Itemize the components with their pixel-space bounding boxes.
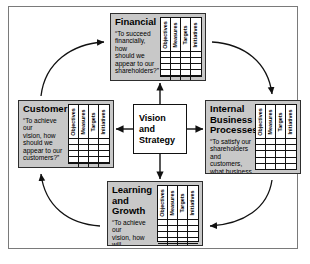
table-cell[interactable] (69, 151, 79, 156)
table-cell[interactable] (168, 244, 178, 246)
table-cell[interactable] (191, 64, 201, 69)
table-cell[interactable] (188, 244, 198, 246)
table-cell[interactable] (286, 145, 296, 150)
table-cell[interactable] (79, 145, 89, 150)
table-cell[interactable] (79, 163, 89, 168)
table-cell[interactable] (188, 238, 198, 243)
table-row[interactable] (158, 244, 198, 246)
learning-scorecard-table[interactable]: Objectives Measures Targets Initiatives (157, 185, 199, 242)
table-cell[interactable] (266, 139, 276, 144)
table-row[interactable] (69, 163, 109, 168)
table-cell[interactable] (286, 151, 296, 156)
table-cell[interactable] (168, 226, 178, 231)
table-cell[interactable] (161, 64, 171, 69)
table-cell[interactable] (79, 139, 89, 144)
table-cell[interactable] (191, 58, 201, 63)
table-cell[interactable] (178, 232, 188, 237)
table-cell[interactable] (286, 139, 296, 144)
table-cell[interactable] (286, 158, 296, 163)
table-cell[interactable] (178, 244, 188, 246)
header-label-measures: Measures (170, 190, 175, 215)
table-cell[interactable] (276, 151, 286, 156)
table-cell[interactable] (286, 164, 296, 169)
table-cell[interactable] (188, 232, 198, 237)
table-cell[interactable] (89, 139, 99, 144)
table-cell[interactable] (161, 52, 171, 57)
table-cell[interactable] (89, 145, 99, 150)
table-cell[interactable] (69, 139, 79, 144)
table-cell[interactable] (256, 164, 266, 169)
table-cell[interactable] (178, 220, 188, 225)
table-cell[interactable] (181, 58, 191, 63)
table-cell[interactable] (171, 64, 181, 69)
table-cell[interactable] (191, 52, 201, 57)
table-cell[interactable] (256, 158, 266, 163)
table-cell[interactable] (266, 151, 276, 156)
table-cell[interactable] (158, 220, 168, 225)
table-cell[interactable] (99, 151, 109, 156)
table-cell[interactable] (158, 244, 168, 246)
table-cell[interactable] (158, 226, 168, 231)
table-header-row: Objectives Measures Targets Initiatives (69, 105, 109, 139)
table-cell[interactable] (171, 58, 181, 63)
table-cell[interactable] (161, 76, 171, 81)
table-row[interactable] (161, 76, 201, 81)
perspective-box-customer[interactable]: Customer “To achieve our vision, how sho… (18, 100, 114, 168)
table-cell[interactable] (266, 164, 276, 169)
table-cell[interactable] (79, 157, 89, 162)
table-cell[interactable] (99, 163, 109, 168)
table-cell[interactable] (256, 151, 266, 156)
table-cell[interactable] (178, 226, 188, 231)
perspective-box-financial[interactable]: Financial “To succeed financially, how s… (110, 13, 206, 81)
table-cell[interactable] (171, 70, 181, 75)
table-cell[interactable] (181, 64, 191, 69)
header-label-objectives: Objectives (258, 108, 263, 135)
financial-scorecard-table[interactable]: Objectives Measures Targets Initiatives (160, 17, 202, 77)
table-cell[interactable] (168, 232, 178, 237)
table-cell[interactable] (89, 151, 99, 156)
table-cell[interactable] (266, 158, 276, 163)
table-cell[interactable] (276, 164, 286, 169)
table-cell[interactable] (79, 151, 89, 156)
internal-scorecard-table[interactable]: Objectives Measures Targets Initiatives (255, 104, 297, 170)
perspective-box-internal-business-processes[interactable]: Internal Business Processes “To satisfy … (205, 100, 301, 174)
table-cell[interactable] (188, 220, 198, 225)
customer-text-column: Customer “To achieve our vision, how sho… (23, 104, 68, 164)
customer-scorecard-table[interactable]: Objectives Measures Targets Initiatives (68, 104, 110, 164)
table-cell[interactable] (178, 238, 188, 243)
perspective-box-learning-and-growth[interactable]: Learning and Growth “To achieve our visi… (107, 181, 203, 246)
table-cell[interactable] (191, 70, 201, 75)
table-cell[interactable] (89, 157, 99, 162)
table-cell[interactable] (256, 145, 266, 150)
table-cell[interactable] (181, 52, 191, 57)
table-cell[interactable] (158, 232, 168, 237)
table-cell[interactable] (99, 139, 109, 144)
table-cell[interactable] (181, 70, 191, 75)
table-cell[interactable] (171, 76, 181, 81)
table-cell[interactable] (266, 145, 276, 150)
table-cell[interactable] (171, 52, 181, 57)
table-cell[interactable] (168, 238, 178, 243)
table-cell[interactable] (276, 158, 286, 163)
table-cell[interactable] (69, 145, 79, 150)
table-cell[interactable] (256, 139, 266, 144)
table-cell[interactable] (191, 76, 201, 81)
table-cell[interactable] (158, 238, 168, 243)
table-cell[interactable] (69, 157, 79, 162)
table-cell[interactable] (99, 157, 109, 162)
table-cell[interactable] (168, 220, 178, 225)
table-cell[interactable] (99, 145, 109, 150)
table-cell[interactable] (89, 163, 99, 168)
table-row[interactable] (256, 164, 296, 169)
table-cell[interactable] (69, 163, 79, 168)
table-cell[interactable] (276, 145, 286, 150)
learning-question: “To achieve our vision, how will we sust… (112, 219, 154, 247)
table-cell[interactable] (181, 76, 191, 81)
header-cell-objectives: Objectives (256, 105, 266, 139)
table-cell[interactable] (161, 58, 171, 63)
table-cell[interactable] (276, 139, 286, 144)
table-cell[interactable] (161, 70, 171, 75)
table-cell[interactable] (188, 226, 198, 231)
vision-and-strategy-box[interactable]: Vision and Strategy (133, 104, 187, 154)
diagram-canvas: Financial “To succeed financially, how s… (0, 0, 310, 264)
